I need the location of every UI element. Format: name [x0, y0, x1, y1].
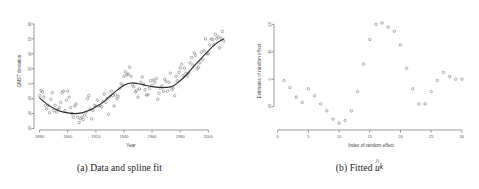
data-point: [442, 71, 445, 74]
x-axis-tick-label: 15: [367, 134, 372, 139]
y-axis-tick-label: -20: [27, 95, 32, 102]
data-point: [72, 116, 75, 119]
data-point: [144, 88, 147, 91]
data-point: [135, 89, 138, 92]
x-axis-tick-label: 1920: [91, 134, 101, 139]
data-point: [76, 116, 79, 119]
data-point: [448, 75, 451, 78]
panel-b-fitted-random-effects: -1001020051015202530Index of random effe…: [240, 0, 479, 160]
data-point: [319, 103, 322, 106]
data-point: [158, 92, 161, 95]
data-point: [62, 90, 65, 93]
x-axis-title: Index of random effect: [348, 143, 394, 148]
data-point: [155, 77, 158, 80]
caption-b-symbol-u-hat: ^u: [375, 163, 380, 173]
data-point: [40, 89, 43, 92]
x-axis-tick-label: 1880: [35, 134, 45, 139]
data-point: [208, 44, 211, 47]
data-point: [362, 63, 365, 66]
data-point: [200, 51, 203, 54]
caption-panel-b: (b) Fitted ^uk: [240, 160, 479, 182]
y-axis-tick-label: 20: [27, 66, 32, 71]
data-point: [369, 38, 372, 41]
data-point: [92, 109, 95, 112]
data-point: [107, 113, 110, 116]
x-axis-title: Year: [126, 143, 136, 148]
data-point: [148, 87, 151, 90]
data-point: [161, 85, 164, 88]
data-point: [156, 98, 159, 101]
x-axis-tick-label: 5: [307, 134, 310, 139]
data-point: [190, 56, 193, 59]
x-axis-tick-label: 25: [429, 134, 434, 139]
data-point: [141, 76, 144, 79]
data-point: [120, 82, 123, 85]
data-point: [117, 95, 120, 98]
data-point: [68, 96, 71, 99]
caption-b-subscript: k: [380, 163, 383, 171]
y-axis-tick-label: 0: [27, 82, 32, 85]
data-point: [197, 66, 200, 69]
figure-container: -60-40-200204060801880190019201940196019…: [0, 0, 479, 189]
data-point: [113, 105, 116, 108]
data-point: [182, 74, 185, 77]
data-point: [52, 109, 55, 112]
y-axis-tick-label: 40: [27, 51, 32, 56]
data-point: [283, 79, 286, 82]
data-point: [214, 33, 217, 36]
data-point: [103, 93, 106, 96]
data-point: [424, 103, 427, 106]
data-point: [393, 30, 396, 33]
data-point: [176, 79, 179, 82]
data-point: [307, 88, 310, 91]
spline-fit-curve: [40, 39, 224, 114]
data-point: [295, 96, 298, 99]
data-point: [301, 101, 304, 104]
x-axis-tick-label: 10: [337, 134, 342, 139]
x-axis-tick-label: 2000: [204, 134, 214, 139]
data-point: [405, 67, 408, 70]
data-point: [430, 90, 433, 93]
data-point: [128, 66, 131, 69]
x-axis-tick-label: 1940: [119, 134, 129, 139]
data-point: [223, 40, 226, 43]
data-point: [180, 63, 183, 66]
data-point: [50, 98, 53, 101]
data-point: [203, 50, 206, 53]
data-point: [48, 112, 51, 115]
plot-b-svg: -1001020051015202530Index of random effe…: [240, 0, 479, 160]
data-point: [194, 54, 197, 57]
data-point: [130, 75, 133, 78]
data-point: [166, 90, 169, 93]
x-axis-tick-label: 1900: [63, 134, 73, 139]
data-point: [171, 88, 174, 91]
y-axis-tick-label: -10: [267, 103, 272, 110]
data-point: [66, 90, 69, 93]
data-point: [332, 118, 335, 121]
data-point: [133, 85, 136, 88]
data-point: [289, 86, 292, 89]
data-point: [79, 118, 82, 121]
x-axis-tick-label: 1960: [148, 134, 158, 139]
y-axis-title: GMST deviation: [17, 54, 22, 87]
x-axis-tick-label: 30: [460, 134, 465, 139]
data-point: [326, 110, 329, 113]
data-point: [134, 91, 137, 94]
data-point: [412, 88, 415, 91]
data-point: [123, 75, 126, 78]
y-axis-tick-label: 10: [267, 49, 272, 54]
data-point: [54, 104, 57, 107]
data-point: [454, 78, 457, 81]
data-point: [220, 37, 223, 40]
y-axis-tick-label: -60: [27, 125, 32, 132]
data-point: [183, 67, 186, 70]
data-point: [162, 90, 165, 93]
data-point: [204, 38, 207, 41]
x-axis-tick-label: 0: [277, 134, 280, 139]
data-point: [38, 94, 41, 97]
data-points-group: [283, 22, 464, 125]
data-point: [218, 47, 221, 50]
data-point: [173, 94, 176, 97]
y-axis-tick-label: 80: [27, 21, 32, 26]
data-point: [96, 99, 99, 102]
